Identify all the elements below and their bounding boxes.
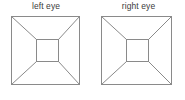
diagonal-bottom-right [59,62,80,85]
diagonal-top-left [102,17,127,40]
inner-square [127,40,149,62]
outer-square [12,17,80,85]
diagonal-top-left [12,17,37,40]
left-eye-label: left eye [0,1,92,12]
diagonal-bottom-right [149,62,172,85]
diagonal-top-right [149,17,172,40]
right-eye-label: right eye [92,1,185,12]
diagonal-top-right [59,17,80,40]
right-eye-box-diagram [92,13,185,99]
stereogram-figure-left-eye: left eye [0,0,92,100]
diagonal-bottom-left [12,62,37,85]
diagonal-bottom-left [102,62,127,85]
left-eye-box-diagram [0,13,92,99]
inner-square [37,40,59,62]
stereogram-figure-right-eye: right eye [92,0,185,100]
